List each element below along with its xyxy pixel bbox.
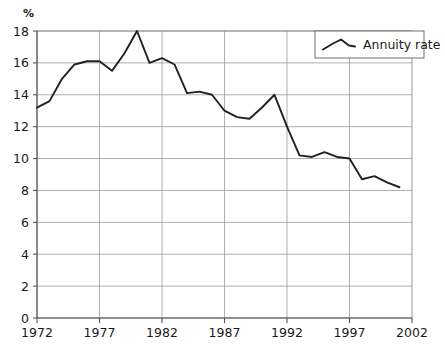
x-axis-tick-labels: 1972197719821987199219972002 — [21, 325, 428, 340]
x-tick-label: 2002 — [396, 325, 428, 340]
x-tick-label: 1982 — [146, 325, 178, 340]
y-tick-label: 6 — [21, 215, 29, 230]
y-tick-label: 2 — [21, 279, 29, 294]
legend: Annuity rate — [315, 31, 441, 58]
y-tick-label: 16 — [13, 55, 29, 70]
y-axis-tick-labels: 024681012141618 — [13, 24, 29, 326]
y-tick-label: 14 — [13, 87, 29, 102]
y-tick-label: 8 — [21, 183, 29, 198]
y-tick-label: 18 — [13, 24, 29, 39]
annuity-rate-line-chart: 024681012141618 197219771982198719921997… — [0, 0, 445, 351]
x-tick-label: 1972 — [21, 325, 53, 340]
legend-label-annuity-rate: Annuity rate — [363, 37, 441, 52]
x-tick-label: 1997 — [334, 325, 366, 340]
x-tick-label: 1977 — [84, 325, 116, 340]
grid-layer — [37, 31, 412, 318]
y-tick-label: 4 — [21, 247, 29, 262]
y-tick-label: 0 — [21, 311, 29, 326]
x-tick-label: 1992 — [271, 325, 303, 340]
x-tick-label: 1987 — [209, 325, 241, 340]
chart-canvas: 024681012141618 197219771982198719921997… — [0, 0, 445, 351]
tick-marks-layer — [33, 31, 412, 323]
y-tick-label: 10 — [13, 151, 29, 166]
y-tick-label: 12 — [13, 119, 29, 134]
y-axis-unit-label: % — [23, 7, 34, 20]
